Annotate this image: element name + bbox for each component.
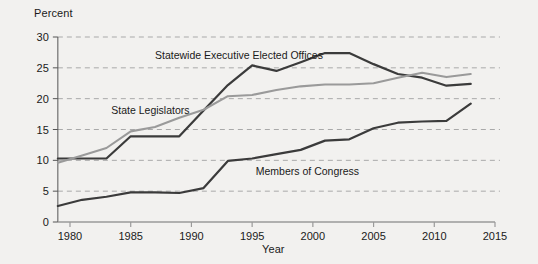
series-group bbox=[58, 53, 471, 206]
x-tick-label: 2000 bbox=[301, 230, 325, 242]
x-tick-label: 1980 bbox=[58, 230, 82, 242]
y-tick-label: 10 bbox=[37, 154, 49, 166]
x-tick-label: 1985 bbox=[118, 230, 142, 242]
y-tick-label: 15 bbox=[37, 124, 49, 136]
series-line-1 bbox=[58, 73, 471, 163]
x-tick-label: 1995 bbox=[240, 230, 264, 242]
y-tick-label: 0 bbox=[43, 216, 49, 228]
y-tick-labels-group: 051015202530 bbox=[37, 31, 49, 228]
y-tick-label: 25 bbox=[37, 62, 49, 74]
x-tick-labels-group: 19801985199019952000200520102015 bbox=[58, 230, 507, 242]
y-tick-label: 20 bbox=[37, 93, 49, 105]
line-chart: Percent Year 051015202530 19801985199019… bbox=[0, 0, 538, 264]
x-tick-label: 2010 bbox=[422, 230, 446, 242]
series-line-2 bbox=[58, 104, 471, 206]
plot-area: 051015202530 198019851990199520002005201… bbox=[0, 0, 538, 264]
x-tick-label: 1990 bbox=[179, 230, 203, 242]
x-tick-label: 2005 bbox=[361, 230, 385, 242]
series-label-0: Statewide Executive Elected Offices bbox=[155, 49, 323, 61]
series-label-1: State Legislators bbox=[111, 104, 189, 116]
y-tick-label: 30 bbox=[37, 31, 49, 43]
axes-group bbox=[53, 37, 495, 227]
x-tick-label: 2015 bbox=[483, 230, 507, 242]
series-label-2: Members of Congress bbox=[256, 165, 359, 177]
y-tick-label: 5 bbox=[43, 185, 49, 197]
